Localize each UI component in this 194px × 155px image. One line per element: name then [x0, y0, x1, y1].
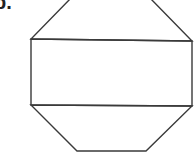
top-trapezoid: [31, 0, 192, 41]
bottom-trapezoid: [31, 105, 192, 151]
octagon-diagram: [0, 0, 194, 155]
middle-rectangle: [31, 39, 192, 106]
